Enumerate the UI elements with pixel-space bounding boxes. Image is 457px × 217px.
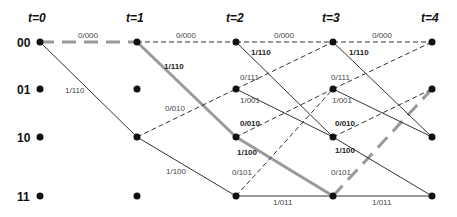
edge-label: 1/100 — [335, 146, 356, 155]
edge-label: 1/100 — [237, 148, 258, 157]
node-t2-11 — [233, 193, 240, 200]
node-t3-00 — [330, 39, 337, 46]
edge-label: 1/110 — [65, 86, 85, 95]
state-label-10: 10 — [17, 131, 31, 145]
node-t1-00 — [134, 39, 141, 46]
edge-label: 0/000 — [372, 31, 393, 40]
node-t2-10 — [233, 134, 240, 141]
edge-label: 0/010 — [335, 119, 356, 128]
edge-label: 0/101 — [232, 168, 253, 177]
edge-label: 0/111 — [240, 73, 259, 82]
edge-label: 0/000 — [274, 31, 295, 40]
edge-label: 0/010 — [240, 119, 261, 128]
time-label-t0: t=0 — [28, 11, 46, 25]
node-t2-00 — [233, 39, 240, 46]
node-t3-01 — [330, 86, 337, 93]
state-label-01: 01 — [17, 83, 31, 97]
edge-label: 0/111 — [331, 73, 350, 82]
edge-label: 1/001 — [332, 96, 353, 105]
state-label-00: 00 — [17, 36, 31, 50]
node-t2-01 — [233, 86, 240, 93]
time-label-t4: t=4 — [421, 11, 439, 25]
node-t3-11 — [330, 193, 337, 200]
node-t3-10 — [330, 134, 337, 141]
node-t1-01 — [134, 86, 141, 93]
node-t4-00 — [429, 39, 436, 46]
node-t4-10 — [429, 134, 436, 141]
edge-label: 1/011 — [372, 198, 392, 207]
node-t4-01 — [429, 86, 436, 93]
node-t0-00 — [37, 39, 44, 46]
edge-label: 0/101 — [331, 168, 352, 177]
edge-label: 1/110 — [251, 48, 271, 57]
node-t4-11 — [429, 193, 436, 200]
node-t0-01 — [37, 86, 44, 93]
time-label-t3: t=3 — [322, 11, 340, 25]
edge-label: 1/001 — [240, 96, 261, 105]
node-t1-11 — [134, 193, 141, 200]
node-t0-11 — [37, 193, 44, 200]
node-t1-10 — [134, 134, 141, 141]
edge-label: 0/000 — [176, 31, 197, 40]
edge-label: 0/010 — [165, 104, 186, 113]
edge-label: 1/110 — [349, 48, 369, 57]
time-label-t2: t=2 — [226, 11, 244, 25]
edge-label: 1/011 — [273, 198, 293, 207]
state-label-11: 11 — [17, 190, 30, 204]
node-t0-10 — [37, 134, 44, 141]
time-label-t1: t=1 — [126, 11, 144, 25]
trellis-diagram: t=0 t=1 t=2 t=3 t=4 00 01 10 11 — [0, 0, 457, 217]
edge-label: 0/000 — [78, 31, 99, 40]
edge-label: 1/100 — [166, 167, 187, 176]
edge-label: 1/110 — [164, 62, 184, 71]
